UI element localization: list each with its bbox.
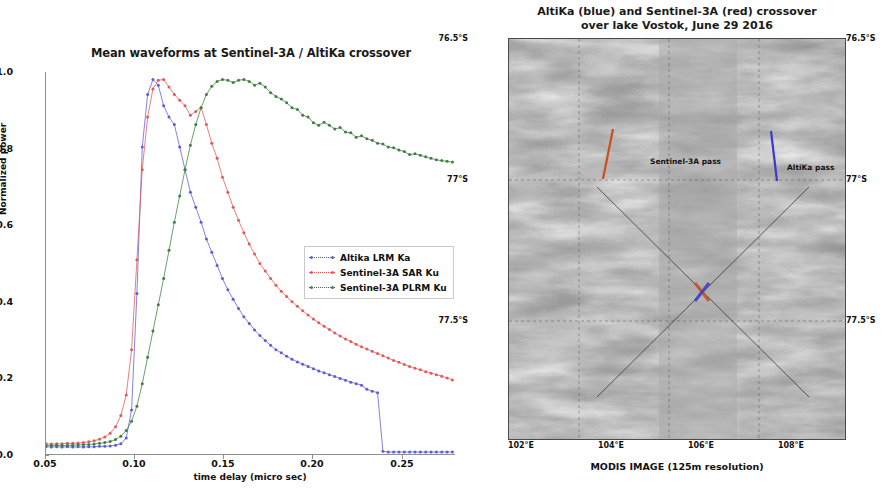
y-tick-0.6: 0.6 — [0, 219, 13, 230]
lat-tick-right-76.5S: 76.5°S — [846, 34, 884, 43]
chart-legend: Altika LRM Ka Sentinel-3A SAR Ku Sentine… — [304, 246, 454, 299]
x-tick-0.15: 0.15 — [201, 458, 245, 469]
legend-label: Altika LRM Ka — [340, 253, 410, 263]
legend-label: Sentinel-3A PLRM Ku — [340, 283, 447, 293]
lon-tick-102E: 102°E — [496, 441, 546, 450]
lat-tick-left-77.5S: 77.5°S — [426, 316, 468, 325]
modis-caption: MODIS IMAGE (125m resolution) — [480, 461, 874, 472]
sentinel-3a-pass-label: Sentinel-3A pass — [650, 157, 721, 166]
y-tick-1.0: 1.0 — [0, 66, 13, 77]
x-tick-mark — [312, 455, 313, 459]
modis-image-svg — [509, 39, 845, 439]
x-axis-label: time delay (micro sec) — [45, 472, 455, 482]
y-tick-0.8: 0.8 — [0, 143, 13, 154]
legend-label: Sentinel-3A SAR Ku — [340, 268, 439, 278]
modis-title-line1: AltiKa (blue) and Sentinel-3A (red) cros… — [480, 5, 874, 19]
legend-line-marker-icon — [309, 283, 335, 292]
altika-pass-label: AltiKa pass — [787, 163, 834, 172]
modis-title-line2: over lake Vostok, June 29 2016 — [480, 19, 874, 33]
x-tick-mark — [134, 455, 135, 459]
x-tick-mark — [402, 455, 403, 459]
lon-tick-108E: 108°E — [766, 441, 816, 450]
y-tick-0.2: 0.2 — [0, 372, 13, 383]
lon-tick-104E: 104°E — [586, 441, 636, 450]
legend-item-sentinel3a-sar-ku: Sentinel-3A SAR Ku — [309, 265, 447, 280]
modis-image-panel: AltiKa (blue) and Sentinel-3A (red) cros… — [470, 0, 884, 494]
lon-tick-106E: 106°E — [676, 441, 726, 450]
waveform-chart-panel: Mean waveforms at Sentinel-3A / AltiKa c… — [0, 0, 470, 494]
y-axis-label: Normalized power — [0, 123, 8, 215]
x-tick-0.25: 0.25 — [380, 458, 424, 469]
x-tick-0.05: 0.05 — [23, 458, 67, 469]
figure-root: Mean waveforms at Sentinel-3A / AltiKa c… — [0, 0, 884, 494]
legend-item-sentinel3a-plrm-ku: Sentinel-3A PLRM Ku — [309, 280, 447, 295]
legend-line-marker-icon — [309, 268, 335, 277]
x-tick-mark — [45, 455, 46, 459]
x-tick-0.20: 0.20 — [290, 458, 334, 469]
lat-tick-right-77.5S: 77.5°S — [846, 316, 884, 325]
modis-image: Sentinel-3A pass AltiKa pass — [508, 38, 846, 440]
modis-title: AltiKa (blue) and Sentinel-3A (red) cros… — [480, 5, 874, 33]
y-tick-0.4: 0.4 — [0, 296, 13, 307]
y-tick-0.0: 0.0 — [0, 449, 13, 460]
chart-title: Mean waveforms at Sentinel-3A / AltiKa c… — [45, 46, 457, 60]
x-tick-0.10: 0.10 — [112, 458, 156, 469]
lat-tick-right-77S: 77°S — [846, 175, 884, 184]
legend-item-altika-lrm-ka: Altika LRM Ka — [309, 250, 447, 265]
lat-tick-left-77S: 77°S — [426, 175, 468, 184]
x-tick-mark — [223, 455, 224, 459]
legend-line-marker-icon — [309, 253, 335, 262]
lat-tick-left-76.5S: 76.5°S — [426, 34, 468, 43]
